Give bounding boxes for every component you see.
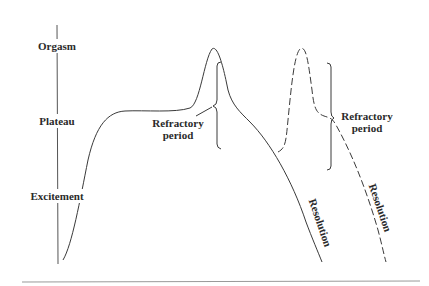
refractory-label-2: Refractory period [341,110,392,134]
refractory-label-2-line2: period [341,122,392,134]
refractory-pointer-1 [196,107,212,116]
refractory-bracket-2 [327,63,334,170]
refractory-label-1-line2: period [152,129,203,141]
refractory-label-1: Refractory period [152,117,203,141]
axis-label-orgasm: Orgasm [38,39,76,53]
sexual-response-cycle-diagram: Orgasm Plateau Excitement Refractory per… [0,0,429,286]
vertical-axis [57,25,58,264]
refractory-label-1-line1: Refractory [152,117,203,129]
axis-label-plateau: Plateau [39,114,74,128]
axis-label-excitement: Excitement [30,189,83,203]
refractory-label-2-line1: Refractory [341,110,392,122]
response-curve-solid [63,48,322,262]
refractory-bracket-1 [213,62,221,149]
baseline-rule [22,281,420,282]
response-curve-dashed [278,48,386,262]
